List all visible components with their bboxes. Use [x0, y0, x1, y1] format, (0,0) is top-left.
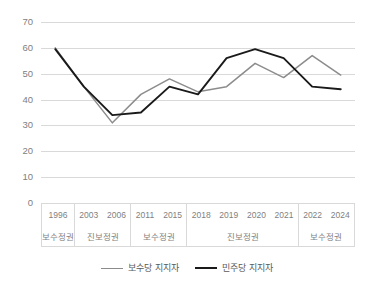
x-axis-regime-label: 보수정권 [299, 226, 354, 246]
y-axis-tick-60: 60 [0, 43, 33, 53]
legend-item-1[interactable]: 보수당 지지자 [101, 264, 179, 273]
y-axis-tick-0: 0 [0, 198, 33, 208]
plot-area [41, 22, 355, 203]
x-axis-year-2011: 2011 [131, 211, 159, 220]
x-axis-year-2015: 2015 [159, 211, 187, 220]
x-axis-year-2018: 2018 [187, 211, 215, 220]
x-axis-regime-label: 보수정권 [131, 226, 186, 246]
x-axis-year-2024: 2024 [326, 211, 354, 220]
x-axis-category-table: 1996보수정권20032006진보정권20112015보수정권20182019… [41, 203, 355, 247]
y-axis-tick-10: 10 [0, 172, 33, 182]
y-axis-tick-70: 70 [0, 17, 33, 27]
x-axis-year-2019: 2019 [215, 211, 243, 220]
x-axis-year-2003: 2003 [75, 211, 103, 220]
x-axis-year-1996: 1996 [42, 211, 74, 220]
y-axis-tick-40: 40 [0, 95, 33, 105]
series-lines-layer [41, 22, 355, 203]
x-axis-group-1: 1996보수정권 [42, 204, 75, 246]
x-axis-regime-label: 진보정권 [187, 226, 297, 246]
x-axis-group-4: 2018201920202021진보정권 [187, 204, 298, 246]
x-axis-year-2020: 2020 [243, 211, 271, 220]
y-axis-tick-20: 20 [0, 146, 33, 156]
y-axis-tick-50: 50 [0, 69, 33, 79]
y-axis-tick-30: 30 [0, 120, 33, 130]
x-axis-group-5: 20222024보수정권 [299, 204, 354, 246]
x-axis-regime-label: 보수정권 [42, 226, 74, 246]
legend-line-icon [101, 268, 123, 269]
line-chart: 010203040506070 1996보수정권20032006진보정권2011… [0, 0, 374, 288]
x-axis-year-row: 2018201920202021 [187, 204, 297, 226]
x-axis-year-row: 20112015 [131, 204, 186, 226]
x-axis-year-row: 20222024 [299, 204, 354, 226]
x-axis-groups: 1996보수정권20032006진보정권20112015보수정권20182019… [42, 204, 354, 246]
x-axis-year-2022: 2022 [299, 211, 327, 220]
x-axis-regime-label: 진보정권 [75, 226, 130, 246]
legend-label: 보수당 지지자 [128, 264, 179, 273]
x-axis-group-2: 20032006진보정권 [75, 204, 131, 246]
y-axis-tick-labels: 010203040506070 [0, 22, 37, 203]
x-axis-year-2021: 2021 [270, 211, 298, 220]
chart-legend: 보수당 지지자민주당 지지자 [0, 258, 374, 278]
legend-label: 민주당 지지자 [222, 264, 273, 273]
x-axis-year-2006: 2006 [103, 211, 131, 220]
x-axis-group-3: 20112015보수정권 [131, 204, 187, 246]
x-axis-year-row: 1996 [42, 204, 74, 226]
series-line-1 [55, 48, 340, 123]
x-axis-year-row: 20032006 [75, 204, 130, 226]
legend-item-2[interactable]: 민주당 지지자 [195, 264, 273, 273]
legend-line-icon [195, 267, 217, 269]
